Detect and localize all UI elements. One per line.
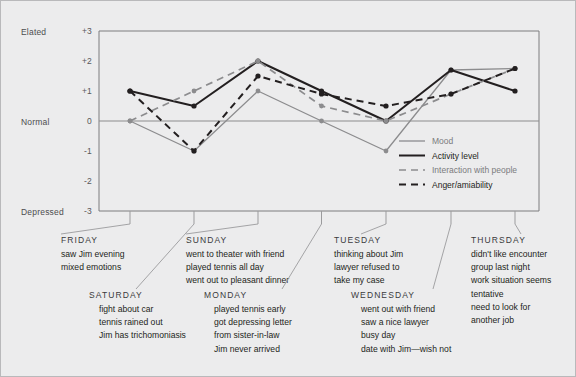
legend: MoodActivity levelInteraction with peopl… — [399, 136, 517, 190]
leader-line — [61, 224, 130, 234]
annotation-tuesday: TUESDAYthinking about Jimlawyer refused … — [334, 224, 403, 285]
axis-label-elated: Elated — [21, 27, 46, 37]
series-line — [130, 69, 515, 152]
annotation-line: group last night — [471, 262, 530, 272]
annotation-line: Jim has trichomoniasis — [99, 330, 186, 340]
annotation-line: fight about car — [99, 304, 154, 314]
data-series-group — [127, 58, 517, 153]
data-point — [383, 103, 388, 108]
leader-line — [515, 224, 521, 234]
annotation-line: tentative — [471, 289, 504, 299]
annotation-line: went out with friend — [360, 304, 435, 314]
data-point — [448, 91, 453, 96]
series-anger-amiability — [127, 66, 517, 154]
annotation-day-name: SATURDAY — [89, 290, 143, 300]
annotation-saturday: SATURDAYfight about cartennis rained out… — [89, 224, 194, 340]
data-point — [319, 119, 324, 124]
leader-line — [361, 224, 386, 234]
legend-label-3: Anger/amiability — [432, 180, 493, 190]
data-point — [191, 103, 196, 108]
annotation-line: work situation seems — [470, 275, 551, 285]
annotation-line: went out to pleasant dinner — [185, 275, 289, 285]
data-point — [256, 59, 261, 64]
data-point — [127, 88, 132, 93]
data-point — [448, 67, 453, 72]
annotation-line: busy day — [361, 330, 396, 340]
data-point — [384, 119, 389, 124]
annotation-line: tennis rained out — [99, 317, 163, 327]
y-tick-label: +2 — [82, 56, 92, 66]
y-tick-label: +3 — [82, 26, 92, 36]
axis-label-normal: Normal — [21, 117, 50, 127]
annotation-sunday: SUNDAYwent to theater with friendplayed … — [185, 224, 289, 285]
annotation-line: got depressing letter — [214, 317, 292, 327]
mood-diary-line-chart: +3+2+10-1-2-3ElatedNormalDepressedMoodAc… — [1, 1, 576, 377]
data-point — [319, 91, 324, 96]
data-point — [255, 73, 260, 78]
legend-label-2: Interaction with people — [432, 165, 517, 175]
annotation-line: played tennis early — [214, 304, 286, 314]
leader-line — [186, 224, 258, 234]
annotation-day-name: THURSDAY — [471, 235, 526, 245]
y-tick-label: -1 — [84, 146, 92, 156]
annotation-thursday: THURSDAYdidn't like encountergroup last … — [470, 224, 551, 325]
y-tick-label: 0 — [87, 116, 92, 126]
legend-label-1: Activity level — [432, 151, 479, 161]
annotation-line: lawyer refused to — [334, 262, 400, 272]
y-tick-label: -2 — [84, 176, 92, 186]
annotation-line: saw Jim evening — [61, 249, 125, 259]
annotation-line: didn't like encounter — [471, 249, 547, 259]
annotation-line: went to theater with friend — [185, 249, 285, 259]
data-point — [512, 66, 517, 71]
leader-line — [433, 224, 451, 289]
annotation-day-name: TUESDAY — [334, 235, 381, 245]
annotation-line: take my case — [334, 275, 385, 285]
series-mood — [128, 66, 518, 153]
annotation-friday: FRIDAYsaw Jim eveningmixed emotions — [61, 224, 130, 272]
axis-label-depressed: Depressed — [21, 207, 64, 217]
annotation-line: date with Jim—wish not — [361, 344, 452, 354]
annotation-line: from sister-in-law — [214, 330, 280, 340]
annotation-day-name: MONDAY — [204, 290, 247, 300]
data-point — [191, 148, 196, 153]
annotation-line: Jim never arrived — [214, 344, 280, 354]
data-point — [192, 89, 197, 94]
annotation-line: thinking about Jim — [334, 249, 403, 259]
axes: +3+2+10-1-2-3ElatedNormalDepressed — [21, 26, 539, 224]
data-point — [384, 149, 389, 154]
annotation-day-name: WEDNESDAY — [351, 290, 415, 300]
annotation-line: need to look for — [471, 302, 530, 312]
annotation-line: mixed emotions — [61, 262, 121, 272]
annotation-line: another job — [471, 315, 514, 325]
annotation-day-name: SUNDAY — [186, 235, 227, 245]
legend-label-0: Mood — [432, 136, 454, 146]
y-tick-label: +1 — [82, 86, 92, 96]
data-point — [256, 89, 261, 94]
chart-figure: +3+2+10-1-2-3ElatedNormalDepressedMoodAc… — [0, 0, 576, 377]
data-point — [128, 119, 133, 124]
y-tick-label: -3 — [84, 206, 92, 216]
annotation-day-name: FRIDAY — [61, 235, 98, 245]
data-point — [512, 88, 517, 93]
annotation-line: played tennis all day — [186, 262, 265, 272]
series-line — [130, 69, 515, 152]
leader-line — [282, 224, 322, 289]
data-point — [319, 104, 324, 109]
annotation-line: saw a nice lawyer — [361, 317, 429, 327]
annotations-group: FRIDAYsaw Jim eveningmixed emotionsSATUR… — [61, 224, 551, 354]
